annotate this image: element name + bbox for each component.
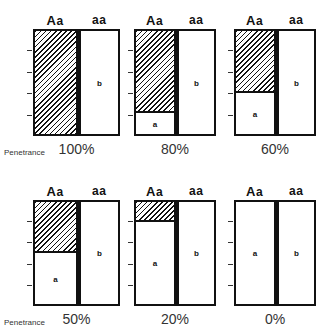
penetrance-panel: Aaaaab60% [234, 29, 316, 136]
region-b-label: b [194, 78, 199, 87]
allele-a: a [156, 14, 163, 28]
axis-tick [228, 115, 233, 116]
axis-tick [128, 221, 133, 222]
genotype-divider [174, 31, 179, 134]
penetrance-panel: Aaaaab80% [134, 29, 216, 136]
region-b-label: b [294, 249, 299, 258]
affected-hatched-region [136, 31, 174, 113]
penetrance-value: 100% [59, 141, 95, 157]
genotype-divider [76, 202, 81, 304]
region-b-label: b [294, 78, 299, 87]
axis-tick [27, 50, 32, 51]
genotype-aa-label: aa [189, 13, 203, 27]
affected-hatched-region [236, 31, 274, 93]
genotype-Aa-label: Aa [47, 184, 64, 199]
genotype-aa-label: aa [92, 13, 106, 27]
genotype-Aa-label: Aa [146, 13, 163, 28]
allele-a: a [256, 185, 263, 199]
region-b-label: b [97, 78, 102, 87]
region-a-label: a [253, 109, 257, 118]
allele-A: A [47, 184, 57, 199]
allele-A: A [246, 13, 256, 28]
axis-tick [27, 264, 32, 265]
genotype-divider [274, 202, 279, 304]
genotype-divider [274, 31, 279, 134]
allele-A: A [146, 13, 156, 28]
penetrance-value: 60% [261, 141, 289, 157]
axis-tick [128, 264, 133, 265]
allele-A: A [146, 184, 156, 199]
penetrance-panel: Aaaaab20% [134, 200, 216, 306]
penetrance-value: 80% [161, 141, 189, 157]
genotype-Aa-label: Aa [246, 184, 263, 199]
allele-a: a [56, 14, 63, 28]
penetrance-row-label: Penetrance [4, 148, 45, 157]
panel-box: ab [134, 29, 216, 136]
axis-tick [228, 93, 233, 94]
penetrance-value: 50% [62, 311, 90, 327]
axis-tick [128, 242, 133, 243]
allele-a: a [56, 185, 63, 199]
axis-tick [128, 115, 133, 116]
axis-tick [27, 242, 32, 243]
genotype-Aa-label: Aa [246, 13, 263, 28]
panel-box: ab [33, 200, 120, 306]
axis-tick [128, 285, 133, 286]
genotype-aa-label: aa [189, 184, 203, 198]
axis-tick [228, 221, 233, 222]
axis-tick [228, 242, 233, 243]
genotype-Aa-label: Aa [47, 13, 64, 28]
panel-box: ab [234, 200, 316, 306]
axis-tick [228, 72, 233, 73]
penetrance-panel: Aaaaab0% [234, 200, 316, 306]
genotype-Aa-label: Aa [146, 184, 163, 199]
penetrance-row-label: Penetrance [4, 318, 45, 327]
panel-box: b [33, 29, 120, 136]
genotype-aa-label: aa [289, 13, 303, 27]
axis-tick [228, 50, 233, 51]
genotype-aa-label: aa [289, 184, 303, 198]
allele-A: A [246, 184, 256, 199]
genotype-divider [174, 202, 179, 304]
axis-tick [228, 285, 233, 286]
region-a-label: a [253, 249, 257, 258]
axis-tick [128, 72, 133, 73]
axis-tick [27, 285, 32, 286]
region-a-label: a [53, 274, 57, 283]
axis-tick [27, 72, 32, 73]
affected-hatched-region [35, 31, 76, 134]
panel-box: ab [234, 29, 316, 136]
axis-tick [27, 93, 32, 94]
axis-tick [27, 221, 32, 222]
region-b-label: b [194, 249, 199, 258]
allele-a: a [156, 185, 163, 199]
penetrance-panel: Aaaaab50% [33, 200, 120, 306]
axis-tick [128, 50, 133, 51]
penetrance-value: 0% [265, 311, 285, 327]
region-b-label: b [97, 249, 102, 258]
penetrance-value: 20% [161, 311, 189, 327]
region-a-label: a [153, 119, 157, 128]
axis-tick [27, 115, 32, 116]
panel-box: ab [134, 200, 216, 306]
affected-hatched-region [35, 202, 76, 253]
allele-A: A [47, 13, 57, 28]
genotype-divider [76, 31, 81, 134]
axis-tick [228, 264, 233, 265]
allele-a: a [256, 14, 263, 28]
region-a-label: a [153, 259, 157, 268]
penetrance-panel: Aaaab100% [33, 29, 120, 136]
affected-hatched-region [136, 202, 174, 222]
axis-tick [128, 93, 133, 94]
genotype-aa-label: aa [92, 184, 106, 198]
